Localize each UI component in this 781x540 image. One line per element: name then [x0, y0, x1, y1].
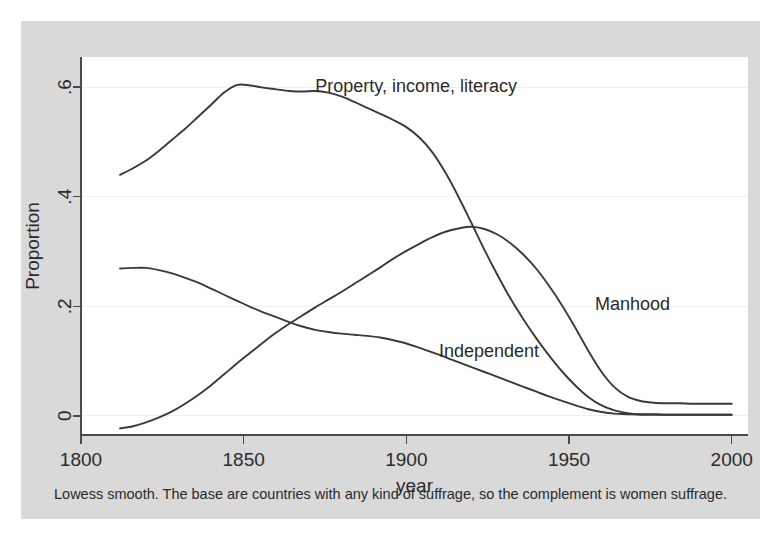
y-tick-label: .4 [55, 188, 76, 204]
y-tick-label: 0 [55, 411, 76, 422]
x-tick-label: 2000 [711, 449, 753, 470]
annotation-property-income-literacy: Property, income, literacy [315, 76, 517, 96]
figure-panel: 0.2.4.6 18001850190019502000 Property, i… [21, 21, 760, 519]
x-tick-label: 1950 [548, 449, 590, 470]
annotation-independent: Independent [439, 341, 539, 361]
x-tick-label: 1850 [223, 449, 265, 470]
x-tick-labels-group: 18001850190019502000 [60, 449, 753, 470]
x-tick-label: 1900 [385, 449, 427, 470]
y-tick-label: .6 [55, 79, 76, 95]
y-axis-title: Proportion [22, 202, 43, 290]
x-tick-label: 1800 [60, 449, 102, 470]
suffrage-line-chart: 0.2.4.6 18001850190019502000 Property, i… [21, 21, 760, 519]
y-tick-label: .2 [55, 298, 76, 314]
annotation-manhood: Manhood [595, 294, 670, 314]
figure-note: Lowess smooth. The base are countries wi… [54, 486, 727, 502]
y-tick-labels-group: 0.2.4.6 [55, 79, 76, 421]
